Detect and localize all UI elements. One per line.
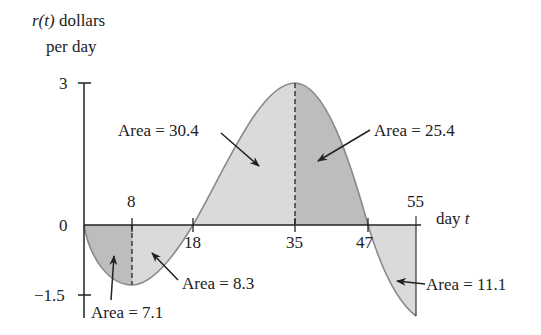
y-axis-label-line2: per day — [46, 37, 97, 56]
chart: r(t) dollars per day 3 0 −1.5 8 18 35 47… — [0, 0, 541, 335]
y-tick-label-0: 0 — [59, 216, 68, 235]
y-tick-label-3: 3 — [59, 74, 68, 93]
y-axis-label-line1: r(t) dollars — [32, 11, 105, 30]
x-tick-label-8: 8 — [127, 192, 136, 211]
x-tick-label-47: 47 — [356, 233, 374, 252]
x-axis-label: day t — [436, 209, 471, 228]
annotation-area-7.1: Area = 7.1 — [91, 303, 163, 322]
annotation-area-11.1: Area = 11.1 — [426, 275, 506, 294]
y-tick-label-neg1.5: −1.5 — [34, 286, 65, 305]
annotation-area-25.4: Area = 25.4 — [374, 121, 455, 140]
annotation-area-8.3: Area = 8.3 — [182, 274, 254, 293]
annotation-area-30.4: Area = 30.4 — [118, 121, 199, 140]
x-tick-label-18: 18 — [184, 233, 201, 252]
x-tick-label-35: 35 — [286, 233, 303, 252]
x-tick-label-55: 55 — [407, 192, 424, 211]
